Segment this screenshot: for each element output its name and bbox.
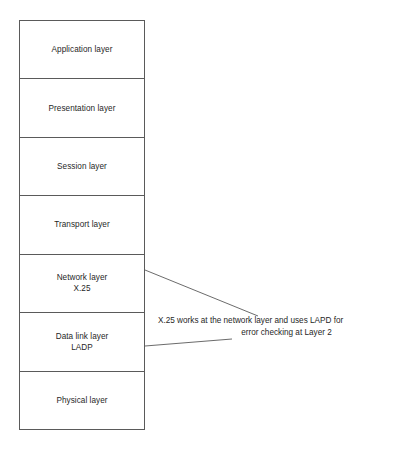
osi-layer-protocol: LADP xyxy=(71,342,93,353)
network-layer-leader-line xyxy=(145,270,258,316)
osi-layer-label: Transport layer xyxy=(54,219,110,230)
osi-model-stack: Application layer Presentation layer Ses… xyxy=(19,20,145,430)
osi-layer-label: Session layer xyxy=(57,161,107,172)
osi-layer-label: Application layer xyxy=(52,44,113,55)
osi-diagram: Application layer Presentation layer Ses… xyxy=(0,0,407,454)
osi-layer-presentation[interactable]: Presentation layer xyxy=(20,79,144,137)
data-link-layer-leader-line xyxy=(145,339,232,346)
annotation-line-1: X.25 works at the network layer and uses… xyxy=(158,315,401,327)
osi-layer-network[interactable]: Network layer X.25 xyxy=(20,255,144,313)
osi-layer-label: Data link layer xyxy=(56,331,109,342)
osi-layer-physical[interactable]: Physical layer xyxy=(20,372,144,429)
annotation-callout: X.25 works at the network layer and uses… xyxy=(158,315,401,338)
osi-layer-transport[interactable]: Transport layer xyxy=(20,196,144,254)
osi-layer-label: Physical layer xyxy=(56,395,107,406)
osi-layer-label: Presentation layer xyxy=(49,103,116,114)
osi-layer-data-link[interactable]: Data link layer LADP xyxy=(20,313,144,371)
osi-layer-application[interactable]: Application layer xyxy=(20,21,144,79)
osi-layer-protocol: X.25 xyxy=(73,283,90,294)
osi-layer-session[interactable]: Session layer xyxy=(20,138,144,196)
annotation-line-2: error checking at Layer 2 xyxy=(158,327,401,339)
osi-layer-label: Network layer xyxy=(57,272,108,283)
